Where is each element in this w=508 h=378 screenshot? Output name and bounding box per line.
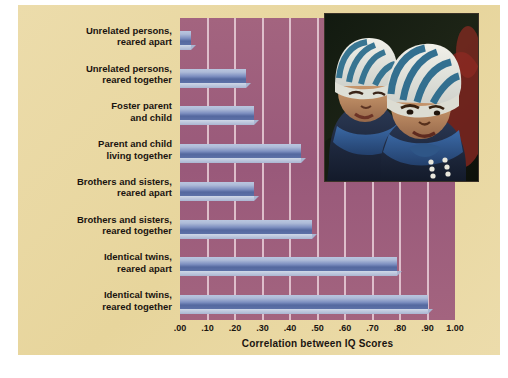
category-label-line: living together: [0, 150, 172, 162]
category-label-0: Unrelated persons,reared apart: [0, 25, 172, 48]
bar-1: [180, 69, 246, 83]
category-label-line: reared apart: [0, 263, 172, 275]
x-tick-.20: .20: [229, 323, 242, 333]
category-label-line: Parent and child: [0, 138, 172, 150]
bar-bevel-4: [180, 196, 254, 201]
bar-bevel-0: [180, 45, 191, 50]
category-label-line: Unrelated persons,: [0, 63, 172, 75]
category-label-line: and child: [0, 112, 172, 124]
category-label-line: reared apart: [0, 187, 172, 199]
category-label-line: Foster parent: [0, 100, 172, 112]
x-axis-ticks: .00.10.20.30.40.50.60.70.80.901.00: [180, 323, 455, 337]
bar-row: [180, 257, 455, 271]
category-label-5: Brothers and sisters,reared together: [0, 214, 172, 237]
bar-2: [180, 106, 254, 120]
category-label-line: Unrelated persons,: [0, 25, 172, 37]
bar-row: [180, 295, 455, 309]
bar-bevel-3: [180, 158, 301, 163]
photo-image: [325, 14, 478, 181]
category-label-line: Identical twins,: [0, 289, 172, 301]
chart-figure: Unrelated persons,reared apartUnrelated …: [0, 0, 508, 378]
x-tick-1.00: 1.00: [446, 323, 464, 333]
bar-row: [180, 220, 455, 234]
bar-5: [180, 220, 312, 234]
category-label-1: Unrelated persons,reared together: [0, 63, 172, 86]
category-label-line: reared apart: [0, 36, 172, 48]
bar-3: [180, 144, 301, 158]
category-label-line: reared together: [0, 301, 172, 313]
category-label-line: reared together: [0, 225, 172, 237]
x-tick-.40: .40: [284, 323, 297, 333]
category-label-line: Brothers and sisters,: [0, 176, 172, 188]
category-label-line: Brothers and sisters,: [0, 214, 172, 226]
bar-bevel-1: [180, 83, 246, 88]
x-tick-.30: .30: [256, 323, 269, 333]
category-label-line: reared together: [0, 74, 172, 86]
category-label-3: Parent and childliving together: [0, 138, 172, 161]
bar-0: [180, 31, 191, 45]
x-tick-.60: .60: [339, 323, 352, 333]
bar-4: [180, 182, 254, 196]
category-label-6: Identical twins,reared apart: [0, 251, 172, 274]
x-tick-.00: .00: [174, 323, 187, 333]
bar-bevel-7: [180, 309, 428, 314]
category-label-2: Foster parentand child: [0, 100, 172, 123]
bar-6: [180, 257, 397, 271]
category-label-4: Brothers and sisters,reared apart: [0, 176, 172, 199]
x-tick-.80: .80: [394, 323, 407, 333]
bar-bevel-2: [180, 120, 254, 125]
category-label-line: Identical twins,: [0, 251, 172, 263]
x-tick-.70: .70: [366, 323, 379, 333]
bar-bevel-6: [180, 271, 397, 276]
bar-bevel-5: [180, 234, 312, 239]
bar-7: [180, 295, 428, 309]
x-tick-.50: .50: [311, 323, 324, 333]
x-axis-label: Correlation between IQ Scores: [180, 338, 455, 349]
twin-toddlers-photo: [325, 14, 478, 181]
bar-row: [180, 182, 455, 196]
category-label-7: Identical twins,reared together: [0, 289, 172, 312]
x-tick-.90: .90: [421, 323, 434, 333]
x-tick-.10: .10: [201, 323, 214, 333]
